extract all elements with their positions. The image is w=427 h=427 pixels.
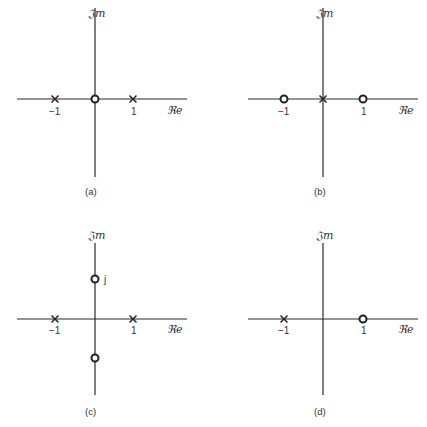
im-axis-label: 𝔍m [315, 7, 333, 20]
re-axis-label: ℜe [167, 323, 183, 336]
tick-label-1: 1 [131, 325, 137, 336]
zero-marker [92, 355, 99, 362]
panel-c: 𝔍m ℜe j −1 1 (c) [17, 229, 187, 417]
caption: (c) [85, 406, 96, 417]
im-axis-label: 𝔍m [315, 229, 333, 242]
caption: (a) [85, 186, 97, 197]
re-axis-label: ℜe [398, 104, 414, 117]
pole-zero-figure: 𝔍m ℜe −1 1 (a) 𝔍m ℜe −1 1 (b) 𝔍m ℜe j [0, 0, 427, 427]
tick-label-minus-1: −1 [49, 325, 61, 336]
panel-a: 𝔍m ℜe −1 1 (a) [17, 7, 187, 197]
im-axis-label: 𝔍m [87, 229, 105, 242]
re-axis-label: ℜe [398, 323, 414, 336]
zero-marker [92, 96, 99, 103]
imag-label-j: j [103, 274, 106, 285]
tick-label-1: 1 [361, 325, 367, 336]
im-axis-label: 𝔍m [87, 7, 105, 20]
tick-label-1: 1 [361, 106, 367, 117]
zero-marker [360, 96, 367, 103]
zero-marker [92, 276, 99, 283]
zero-marker [360, 316, 367, 323]
panel-d: 𝔍m ℜe −1 1 (d) [248, 229, 418, 417]
caption: (b) [314, 186, 326, 197]
tick-label-minus-1: −1 [49, 106, 61, 117]
re-axis-label: ℜe [167, 104, 183, 117]
caption: (d) [314, 406, 326, 417]
tick-label-minus-1: −1 [278, 106, 290, 117]
zero-marker [281, 96, 288, 103]
panel-b: 𝔍m ℜe −1 1 (b) [248, 7, 418, 197]
tick-label-minus-1: −1 [278, 325, 290, 336]
tick-label-1: 1 [131, 106, 137, 117]
